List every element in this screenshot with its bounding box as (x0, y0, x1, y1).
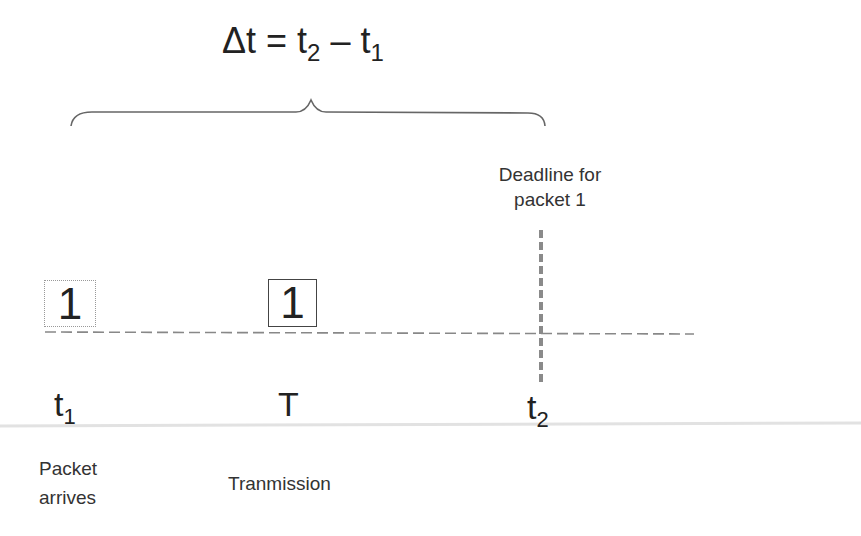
t2-base: t (297, 20, 307, 61)
deadline-label-line2: packet 1 (470, 187, 630, 212)
separator-line (0, 423, 861, 426)
timeline-dashed (45, 332, 694, 334)
diagram-lines (0, 0, 861, 536)
arrives-line2: arrives (39, 483, 97, 512)
packet-waiting-box: 1 (44, 280, 96, 327)
interval-brace (71, 100, 545, 126)
delta-t: Δt (222, 20, 256, 61)
deadline-label-line1: Deadline for (470, 162, 630, 187)
t2-label-sub: 2 (536, 407, 548, 432)
t1-label-sub: 1 (63, 404, 75, 429)
t2-subscript: 2 (307, 39, 320, 66)
packet-transmitting-box: 1 (268, 279, 317, 327)
time-label-T: T (278, 385, 299, 424)
arrives-line1: Packet (39, 454, 97, 483)
equals-sign: = (256, 20, 297, 61)
deadline-label: Deadline for packet 1 (470, 162, 630, 212)
packet-arrives-description: Packet arrives (39, 454, 97, 512)
transmission-description: Tranmission (228, 469, 331, 498)
time-label-t1: t1 (54, 385, 76, 430)
t1-base: t (361, 20, 371, 61)
time-label-t2: t2 (527, 388, 549, 433)
t1-subscript: 1 (371, 39, 384, 66)
minus-sign: – (320, 20, 360, 61)
delta-t-formula: Δt = t2 – t1 (222, 20, 384, 67)
